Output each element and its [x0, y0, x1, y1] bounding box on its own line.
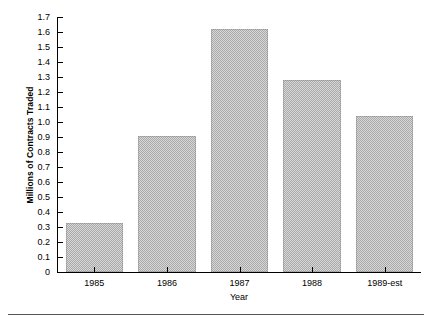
y-axis-tick-label: 0.9: [20, 133, 50, 142]
y-axis-tick-label: 1.5: [20, 43, 50, 52]
bar-chart: Millions of Contracts Traded 00.10.20.30…: [0, 0, 432, 324]
x-axis-title: Year: [57, 292, 421, 303]
y-axis-tick-label: 0.6: [20, 178, 50, 187]
figure-bottom-rule: [8, 314, 424, 315]
y-axis-tick-label: 0.4: [20, 208, 50, 217]
bar-series: [58, 17, 421, 272]
y-axis-tick-label: 1.2: [20, 88, 50, 97]
y-axis-tick-label: 1.3: [20, 73, 50, 82]
y-axis-tick-label: 1.6: [20, 28, 50, 37]
y-axis-tick-labels: 00.10.20.30.40.50.60.70.80.91.01.11.21.3…: [20, 0, 50, 324]
x-axis-line: [57, 272, 421, 273]
x-axis-tick-mark: [385, 267, 386, 272]
y-axis-tick-label: 0.2: [20, 238, 50, 247]
y-axis-tick-label: 0.5: [20, 193, 50, 202]
y-axis-tick-label: 1.4: [20, 58, 50, 67]
bar: [356, 116, 413, 272]
y-axis-tick-label: 0.8: [20, 148, 50, 157]
x-axis-tick-label: 1988: [302, 278, 322, 288]
y-axis-tick-label: 1.1: [20, 103, 50, 112]
y-axis-tick-label: 0.3: [20, 223, 50, 232]
x-axis-tick-labels: 19851986198719881989-est: [57, 278, 421, 292]
y-axis-tick-mark: [58, 272, 63, 273]
x-axis-tick-label: 1986: [157, 278, 177, 288]
bar: [66, 223, 123, 273]
y-axis-tick-label: 1.0: [20, 118, 50, 127]
y-axis-tick-label: 0: [20, 268, 50, 277]
x-axis-tick-mark: [240, 267, 241, 272]
y-axis-tick-label: 0.7: [20, 163, 50, 172]
bar: [211, 29, 268, 272]
x-axis-tick-label: 1989-est: [367, 278, 402, 288]
x-axis-tick-mark: [312, 267, 313, 272]
y-axis-tick-label: 1.7: [20, 13, 50, 22]
y-axis-tick-label: 0.1: [20, 253, 50, 262]
x-axis-tick-mark: [94, 267, 95, 272]
x-axis-tick-label: 1985: [84, 278, 104, 288]
bar: [283, 80, 340, 272]
x-axis-tick-label: 1987: [229, 278, 249, 288]
plot-area: [57, 17, 420, 272]
bar: [138, 136, 195, 273]
x-axis-tick-mark: [167, 267, 168, 272]
